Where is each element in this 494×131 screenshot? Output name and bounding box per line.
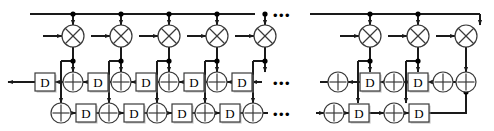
- delay-mid-6-label: D: [365, 75, 374, 90]
- tap-junction-L3: [166, 58, 171, 63]
- ellipsis-top: •••: [273, 8, 291, 23]
- delay-bot-2-label: D: [129, 106, 138, 121]
- tap-junction-R1: [367, 58, 372, 63]
- delay-bot-3-label: D: [177, 106, 186, 121]
- bus-junction-3: [166, 11, 171, 16]
- tap-junction-L2: [118, 58, 123, 63]
- block-layer: DDDDDDDDDDDDD: [35, 25, 477, 124]
- tap-junction-R2: [415, 58, 420, 63]
- delay-mid-7-label: D: [413, 75, 422, 90]
- delay-mid-3-label: D: [141, 75, 150, 90]
- bus-junction-7: [415, 11, 420, 16]
- bus-junction-4: [214, 11, 219, 16]
- delay-mid-1-label: D: [40, 75, 49, 90]
- delay-mid-4-label: D: [189, 75, 198, 90]
- bus-junction-5: [262, 11, 267, 16]
- delay-bot-4-label: D: [225, 106, 234, 121]
- ellipsis-middle: •••: [273, 76, 291, 91]
- delay-bot-5-label: D: [354, 106, 363, 121]
- tap-junction-L5: [262, 58, 267, 63]
- delay-bot-6-label: D: [414, 106, 423, 121]
- tap-junction-L4: [214, 58, 219, 63]
- ellipsis-layer: •••••••••: [273, 8, 291, 122]
- ellipsis-bottom: •••: [273, 107, 291, 122]
- tap-junction-L1: [70, 58, 75, 63]
- bus-junction-2: [118, 11, 123, 16]
- systolic-filter-diagram: DDDDDDDDDDDDD •••••••••: [0, 0, 494, 131]
- bus-junction-6: [367, 11, 372, 16]
- delay-mid-2-label: D: [93, 75, 102, 90]
- diagram-canvas: DDDDDDDDDDDDD •••••••••: [0, 0, 494, 131]
- delay-mid-5-label: D: [237, 75, 246, 90]
- bus-junction-1: [70, 11, 75, 16]
- right-feedback-path: [429, 92, 466, 113]
- delay-bot-1-label: D: [81, 106, 90, 121]
